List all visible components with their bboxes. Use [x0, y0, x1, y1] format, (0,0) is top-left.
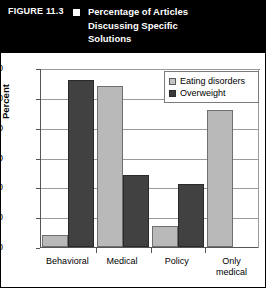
x-axis-tick-label-policy: Policy: [150, 256, 205, 267]
x-axis-tick-mark: [151, 248, 152, 253]
bar-policy-eating-disorders: [152, 226, 178, 247]
dark-gray-square-icon: [169, 90, 176, 97]
bar-only-medical-eating-disorders: [207, 110, 233, 247]
x-axis-tick-mark: [205, 248, 206, 253]
y-axis-tick-mark: [36, 218, 40, 219]
gridline: [41, 69, 259, 70]
x-axis-tick-label-behavioral: Behavioral: [40, 256, 95, 267]
y-axis-tick-mark: [36, 188, 40, 189]
figure-title-line-1: Percentage of Articles: [88, 5, 260, 19]
bar-medical-eating-disorders: [97, 86, 123, 247]
x-axis-tick-label-line: medical: [204, 267, 259, 278]
bar-behavioral-eating-disorders: [42, 235, 68, 247]
figure-title-line-2: Discussing Specific: [88, 19, 260, 33]
y-axis-tick-label: 60: [0, 64, 3, 73]
x-axis-tick-label-line: Medical: [95, 256, 150, 267]
light-gray-square-icon: [169, 78, 176, 85]
bar-behavioral-overweight: [68, 80, 94, 247]
y-axis-tick-label: 20: [0, 183, 3, 192]
bar-medical-overweight: [123, 175, 149, 247]
legend-item-overweight: Overweight: [169, 87, 254, 99]
figure-header: FIGURE 11.3 Percentage of Articles Discu…: [1, 1, 266, 53]
legend-item-eating-disorders: Eating disorders: [169, 75, 254, 87]
y-axis-tick-label: 50: [0, 94, 3, 103]
legend-item-label: Eating disorders: [180, 76, 245, 86]
x-axis-tick-mark: [96, 248, 97, 253]
figure-number: FIGURE 11.3: [8, 6, 64, 16]
y-axis-tick-label: 30: [0, 154, 3, 163]
y-axis-tick-mark: [36, 159, 40, 160]
y-axis-tick-mark: [36, 99, 40, 100]
figure-title-line-3: Solutions: [88, 32, 260, 46]
figure-container: FIGURE 11.3 Percentage of Articles Discu…: [0, 0, 266, 288]
legend-item-label: Overweight: [180, 88, 226, 98]
white-square-icon: [73, 9, 80, 16]
x-axis-tick-label-line: Behavioral: [40, 256, 95, 267]
y-axis-tick-mark: [36, 69, 40, 70]
x-axis-tick-label-medical: Medical: [95, 256, 150, 267]
y-axis-tick-mark: [36, 248, 40, 249]
y-axis-tick-label: 0: [0, 243, 3, 252]
x-axis-tick-label-only-medical: Onlymedical: [204, 256, 259, 278]
bar-policy-overweight: [178, 184, 204, 247]
chart-legend: Eating disordersOverweight: [164, 71, 259, 103]
x-axis-tick-label-line: Only: [204, 256, 259, 267]
figure-title: Percentage of Articles Discussing Specif…: [88, 5, 260, 46]
y-axis-tick-mark: [36, 129, 40, 130]
y-axis-tick-label: 40: [0, 124, 3, 133]
x-axis-tick-label-line: Policy: [150, 256, 205, 267]
y-axis-tick-label: 10: [0, 213, 3, 222]
